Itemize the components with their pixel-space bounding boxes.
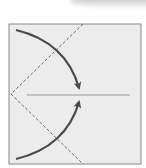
fold-diagram bbox=[0, 0, 146, 168]
paper-square bbox=[9, 24, 141, 164]
